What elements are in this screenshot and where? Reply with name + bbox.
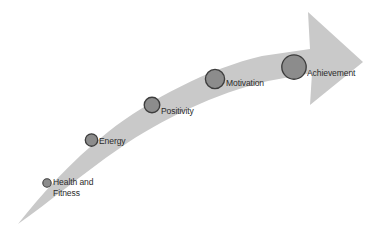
stage-label-positivity: Positivity [161, 106, 194, 117]
stage-label-motivation: Motivation [226, 78, 264, 89]
progression-arrow-diagram [0, 0, 368, 239]
stage-marker-motivation[interactable] [205, 69, 224, 88]
stage-marker-energy[interactable] [85, 134, 97, 146]
stage-label-energy: Energy [99, 136, 126, 147]
stage-marker-positivity[interactable] [144, 97, 160, 113]
stage-marker-achievement[interactable] [282, 55, 306, 79]
stage-label-health-and-fitness: Health and Fitness [53, 177, 93, 199]
stage-marker-health-and-fitness[interactable] [43, 179, 51, 187]
stage-label-achievement: Achievement [307, 68, 355, 79]
